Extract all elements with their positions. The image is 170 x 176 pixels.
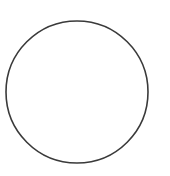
canvas-background xyxy=(0,0,170,176)
drawing-canvas xyxy=(0,0,170,176)
circle-figure xyxy=(0,0,170,176)
